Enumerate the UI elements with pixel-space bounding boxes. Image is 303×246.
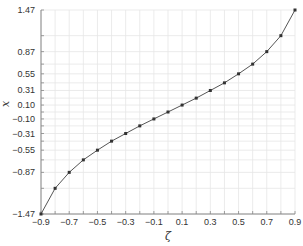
y-tick-label: 0.10 <box>17 100 35 110</box>
data-point-marker <box>124 132 127 135</box>
y-tick-label: −0.87 <box>12 167 35 177</box>
x-tick-label: 0.9 <box>289 217 302 227</box>
data-point-marker <box>237 72 240 75</box>
data-point-marker <box>209 89 212 92</box>
x-tick-label: 0.5 <box>232 217 245 227</box>
y-tick-label: −0.55 <box>12 145 35 155</box>
data-point-marker <box>251 63 254 66</box>
y-tick-label: 1.47 <box>17 5 35 15</box>
data-point-marker <box>181 104 184 107</box>
data-point-marker <box>167 111 170 114</box>
data-point-marker <box>54 187 57 190</box>
x-tick-label: 0.1 <box>176 217 189 227</box>
y-tick-label: 0.55 <box>17 69 35 79</box>
y-tick-label: −0.31 <box>12 129 35 139</box>
data-point-marker <box>138 124 141 127</box>
x-tick-label: 0.7 <box>261 217 274 227</box>
data-point-marker <box>68 171 71 174</box>
tick-labels: −0.9−0.7−0.5−0.3−0.10.10.30.50.70.91.470… <box>12 5 301 227</box>
data-point-marker <box>265 50 268 53</box>
x-tick-label: −0.5 <box>89 217 107 227</box>
x-axis-title: ζ <box>165 230 172 243</box>
y-tick-label: 0.31 <box>17 85 35 95</box>
x-tick-label: 0.3 <box>204 217 217 227</box>
data-point-marker <box>40 213 43 216</box>
y-tick-label: 0.87 <box>17 47 35 57</box>
y-axis-title: x <box>0 100 12 107</box>
data-point-marker <box>223 81 226 84</box>
data-point-marker <box>110 140 113 143</box>
x-tick-label: −0.7 <box>60 217 78 227</box>
data-point-marker <box>82 158 85 161</box>
x-tick-label: −0.1 <box>145 217 163 227</box>
data-point-marker <box>96 149 99 152</box>
y-tick-label: −1.47 <box>12 209 35 219</box>
chart: −0.9−0.7−0.5−0.3−0.10.10.30.50.70.91.470… <box>0 0 303 246</box>
x-tick-label: −0.3 <box>117 217 135 227</box>
data-point-marker <box>152 117 155 120</box>
y-tick-label: −0.10 <box>12 114 35 124</box>
data-point-marker <box>195 97 198 100</box>
data-point-marker <box>279 34 282 37</box>
data-point-marker <box>294 9 297 12</box>
